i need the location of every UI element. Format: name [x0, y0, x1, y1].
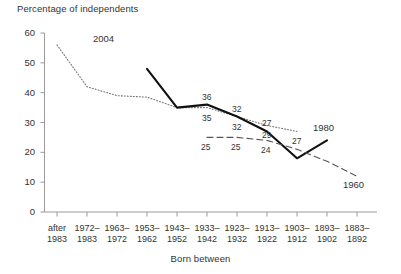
series-line-2004	[57, 45, 297, 132]
y-axis-tick-label: 0	[13, 206, 35, 217]
x-axis-tick-label: 1883–1892	[335, 223, 379, 244]
data-point-label: 27	[292, 136, 301, 146]
y-axis-tick-label: 50	[13, 57, 35, 68]
series-layer	[57, 45, 357, 176]
series-annotation-1960: 1960	[343, 179, 364, 190]
data-point-label: 32	[232, 122, 241, 132]
data-point-label: 25	[201, 142, 210, 152]
data-point-label: 25	[231, 142, 240, 152]
chart-container: Percentage of independents 0102030405060…	[0, 0, 401, 274]
data-point-label: 27	[262, 118, 271, 128]
y-axis-title: Percentage of independents	[17, 3, 138, 14]
y-axis-tick-label: 40	[13, 87, 35, 98]
series-annotation-1980: 1980	[313, 122, 334, 133]
x-axis-tick-label-line: 1892	[335, 234, 379, 245]
x-axis-title: Born between	[0, 253, 401, 264]
y-axis-tick-label: 20	[13, 146, 35, 157]
y-axis-tick-label: 30	[13, 117, 35, 128]
y-axis-tick-label: 60	[13, 27, 35, 38]
data-point-label: 24	[261, 145, 270, 155]
series-line-1960	[207, 137, 357, 176]
data-point-label: 35	[202, 113, 211, 123]
data-point-label: 32	[232, 104, 241, 114]
data-point-label: 29	[262, 130, 271, 140]
y-axis-tick-label: 10	[13, 176, 35, 187]
series-annotation-2004: 2004	[93, 33, 114, 44]
data-point-label: 36	[202, 92, 211, 102]
x-axis-tick-label-line: 1883–	[335, 223, 379, 234]
